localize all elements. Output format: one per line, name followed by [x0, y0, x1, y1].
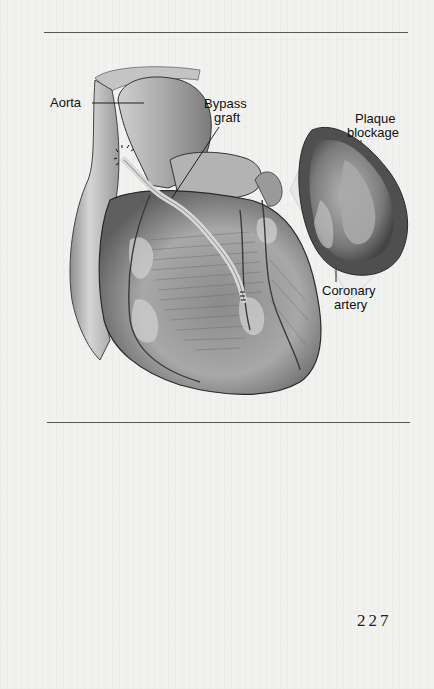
page-number: 227 — [357, 611, 392, 631]
label-coronary-artery-line1: Coronary — [322, 284, 375, 298]
bottom-rule — [47, 422, 410, 423]
label-plaque-blockage-line1: Plaque — [355, 112, 395, 126]
label-bypass-graft-line2: graft — [214, 111, 240, 125]
heart-illustration-icon — [0, 0, 434, 420]
label-plaque-blockage-line2: blockage — [347, 126, 399, 140]
label-bypass-graft-line1: Bypass — [204, 97, 247, 111]
label-aorta: Aorta — [50, 96, 81, 110]
label-coronary-artery-line2: artery — [334, 298, 367, 312]
heart-bypass-illustration: Aorta Bypass graft Plaque blockage Coron… — [0, 0, 434, 420]
